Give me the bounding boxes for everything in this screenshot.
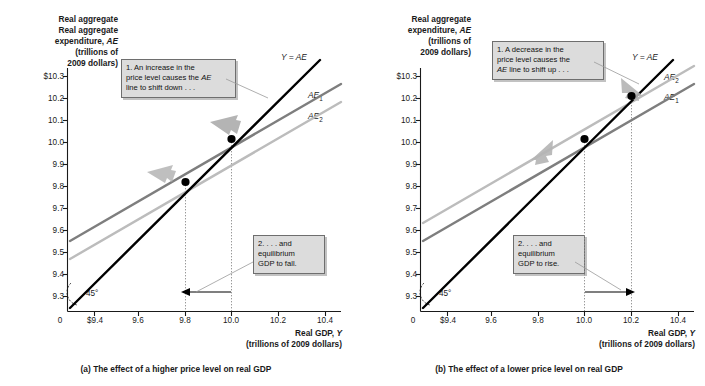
series-ae2-line-a <box>70 102 341 259</box>
series-ae2-line-b <box>423 66 694 223</box>
leader-callout-1-a <box>226 79 268 98</box>
panel-caption-b: (b) The effect of a lower price level on… <box>353 364 705 374</box>
leader-callout-2-b <box>575 262 621 290</box>
x-ticks-b <box>448 312 679 317</box>
x-ticks-a <box>95 312 326 317</box>
series-ae1-line-b <box>423 84 694 241</box>
equilibrium-dot-new-b <box>627 92 635 100</box>
shift-down-arrow-a <box>210 115 241 135</box>
series-ae1-line-a <box>70 84 341 241</box>
panel-b: Real aggregate expenditure, AE (trillion… <box>353 0 705 386</box>
figure-root: Real aggregate Real aggregate expenditur… <box>0 0 705 386</box>
equilibrium-dot-new-a <box>181 178 189 186</box>
gdp-change-arrow-b <box>585 288 635 296</box>
leader-callout-1-b <box>594 62 639 84</box>
shift-down-arrow-secondary-a <box>147 165 176 183</box>
plot-area-b <box>353 0 705 386</box>
y-ticks-a <box>63 77 68 297</box>
shift-up-arrow-b <box>531 140 553 165</box>
plot-area-a <box>0 0 352 386</box>
panel-a: Real aggregate Real aggregate expenditur… <box>0 0 352 386</box>
gdp-change-arrow-a <box>181 288 231 296</box>
y-ticks-b <box>416 77 421 297</box>
panel-caption-a: (a) The effect of a higher price level o… <box>0 364 352 374</box>
equilibrium-dot-initial-a <box>227 135 235 143</box>
series-identity-line-a <box>70 60 320 308</box>
equilibrium-dot-initial-b <box>580 135 588 143</box>
leader-callout-2-a <box>196 262 253 292</box>
